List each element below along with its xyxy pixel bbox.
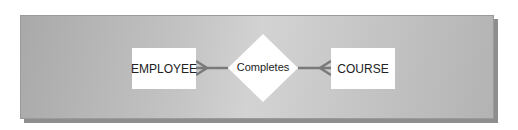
entity-course-label: COURSE xyxy=(337,62,388,76)
entity-course: COURSE xyxy=(331,48,395,89)
entity-employee-label: EMPLOYEE xyxy=(131,62,197,76)
relationship-label: Completes xyxy=(228,61,298,73)
entity-employee: EMPLOYEE xyxy=(132,48,196,89)
